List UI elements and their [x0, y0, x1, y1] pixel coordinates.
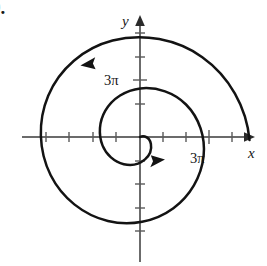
outer-direction-arrow-icon [80, 57, 95, 69]
y-axis-tick-label: 3π [104, 72, 119, 88]
curve-direction-arrows [80, 57, 165, 167]
y-axis-arrow-icon [135, 15, 145, 26]
figure-container: 9. x 3π [0, 0, 267, 266]
inner-direction-arrow-icon [150, 155, 165, 167]
spiral-curve-group [41, 37, 250, 223]
spiral-plot: x 3π y 3π [0, 0, 267, 266]
x-axis-label: x [247, 145, 255, 161]
archimedean-spiral-path [41, 37, 250, 223]
y-axis-label: y [120, 13, 129, 29]
